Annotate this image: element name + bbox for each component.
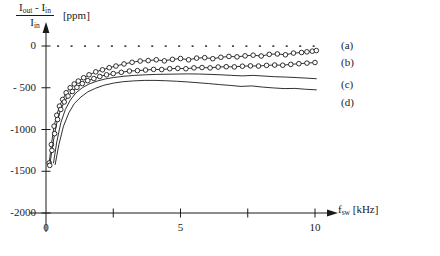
series-marker xyxy=(122,62,127,67)
series-marker xyxy=(192,66,197,71)
y-tick-label: -1000 xyxy=(0,124,36,135)
series-marker xyxy=(272,63,277,68)
zero-line-dot xyxy=(313,45,315,46)
series-marker xyxy=(119,70,124,75)
series-marker xyxy=(127,69,132,74)
series-marker xyxy=(235,55,240,60)
series-line xyxy=(54,74,317,163)
series-marker xyxy=(305,50,310,55)
series-c xyxy=(54,74,317,163)
series-marker xyxy=(176,66,181,71)
series-marker xyxy=(184,66,189,71)
series-marker xyxy=(280,63,285,68)
y-tick-label: -2000 xyxy=(0,207,36,218)
zero-line-dot xyxy=(299,45,301,46)
series-marker xyxy=(194,56,199,61)
series-marker xyxy=(80,81,85,86)
series-marker xyxy=(100,68,105,73)
series-marker xyxy=(87,73,92,78)
zero-line-dot xyxy=(232,45,234,46)
series-a xyxy=(47,48,319,165)
series-marker xyxy=(219,55,224,60)
series-marker xyxy=(202,55,207,60)
series-d xyxy=(55,80,316,164)
series-marker xyxy=(305,61,310,66)
zero-line-dot xyxy=(178,45,180,46)
y-tick-label: 0 xyxy=(0,40,36,51)
y-tick-label: -1500 xyxy=(0,165,36,176)
legend-item-a: (a) xyxy=(341,40,353,51)
y-axis-arrow-icon xyxy=(43,22,50,33)
series-marker xyxy=(111,71,116,76)
zero-line-dot xyxy=(138,45,140,46)
legend-item-d: (d) xyxy=(341,97,354,108)
x-tick-label: 10 xyxy=(302,222,328,233)
series-marker xyxy=(178,56,183,61)
plot-svg xyxy=(0,0,440,256)
series-line xyxy=(50,63,315,166)
series-marker xyxy=(47,163,52,168)
series-marker xyxy=(248,64,253,69)
series-marker xyxy=(135,68,140,73)
series-marker xyxy=(314,48,319,53)
series-marker xyxy=(259,54,264,59)
series-marker xyxy=(107,65,112,70)
zero-line-dot xyxy=(192,45,194,46)
series-marker xyxy=(151,67,156,72)
zero-line-dot xyxy=(286,45,288,46)
series-marker xyxy=(275,52,280,57)
legend-item-b: (b) xyxy=(341,57,354,68)
series-marker xyxy=(70,89,75,94)
series-marker xyxy=(200,65,205,70)
series-marker xyxy=(240,64,245,69)
series-marker xyxy=(227,54,232,59)
series-marker xyxy=(162,59,167,64)
series-marker xyxy=(62,100,67,105)
x-tick-label: 5 xyxy=(168,222,194,233)
zero-line-dot xyxy=(205,45,207,46)
zero-line-dot xyxy=(219,45,221,46)
zero-line-dot xyxy=(245,45,247,46)
x-axis-label-sub: sw xyxy=(342,208,350,217)
series-marker xyxy=(143,68,148,73)
series-marker xyxy=(159,67,164,72)
x-tick-label: 0 xyxy=(33,222,59,233)
series-marker xyxy=(170,57,175,62)
series-marker xyxy=(186,57,191,62)
zero-line-dot xyxy=(151,45,153,46)
series-marker xyxy=(243,54,248,59)
series-marker xyxy=(52,131,57,136)
series-line xyxy=(55,80,316,164)
zero-line-dot xyxy=(124,45,126,46)
series-marker xyxy=(104,73,109,78)
series-marker xyxy=(283,52,288,57)
series-line xyxy=(49,51,316,163)
zero-line-dot xyxy=(84,45,86,46)
series-marker xyxy=(98,74,103,79)
series-marker xyxy=(251,53,256,58)
series-marker xyxy=(232,65,237,70)
series-marker xyxy=(313,60,318,65)
series-marker xyxy=(146,58,151,63)
series-marker xyxy=(267,52,272,57)
series-marker xyxy=(114,64,119,69)
series-marker xyxy=(256,64,261,69)
series-marker xyxy=(167,66,172,71)
zero-line-dot xyxy=(259,45,261,46)
series-marker xyxy=(299,50,304,55)
x-axis-arrow-icon xyxy=(327,210,338,217)
series-marker xyxy=(297,61,302,66)
zero-line-dot xyxy=(97,45,99,46)
zero-line-dot xyxy=(71,45,73,46)
x-axis-unit-label: [kHz] xyxy=(353,203,379,215)
series-marker xyxy=(154,57,159,62)
y-tick-label: - 500 xyxy=(0,82,36,93)
series-marker xyxy=(224,64,229,69)
series-marker xyxy=(288,62,293,67)
zero-line-dot xyxy=(272,45,274,46)
series-marker xyxy=(208,66,213,71)
series-marker xyxy=(216,65,221,70)
figure-container: Iout - Iin Iin [ppm] 0- 500-1000-1500-20… xyxy=(0,0,440,256)
series-marker xyxy=(138,59,143,64)
series-marker xyxy=(66,94,71,99)
